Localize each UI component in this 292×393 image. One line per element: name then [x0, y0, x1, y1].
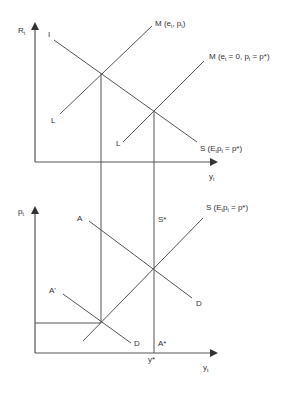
- lm-curve-1: [60, 26, 152, 114]
- bottom-y-axis-label: pt: [18, 207, 24, 217]
- lm-curve-1-start-label: L: [51, 116, 56, 125]
- lras-bottom-label: A*: [158, 339, 166, 348]
- as-curve-label: S (Etpt = p*): [206, 203, 248, 213]
- ad-curve-1: [89, 221, 192, 298]
- lm-curve-1-label: M (et, pt): [155, 19, 186, 29]
- ad-curve-2-end-label: D: [134, 339, 140, 348]
- ad-curve-1-start-label: A: [77, 214, 83, 223]
- is-curve-label: S (Etpt = p*): [200, 144, 242, 154]
- y-star-label: y*: [148, 355, 155, 364]
- bottom-x-axis-label: yt: [203, 363, 209, 373]
- top-x-axis-label: yt: [209, 172, 215, 182]
- ad-curve-1-end-label: D: [196, 299, 202, 308]
- is-curve: [54, 40, 197, 142]
- top-y-axis-label: Rt: [18, 26, 26, 36]
- lm-curve-2-label: M (et = 0, pt = p*): [209, 52, 270, 62]
- top-panel: Rt yt I S (Etpt = p*) L M (et, pt) L M (…: [18, 19, 270, 182]
- is-curve-start-label: I: [48, 30, 50, 39]
- lm-curve-2: [123, 61, 204, 142]
- is-lm-ad-as-diagram: Rt yt I S (Etpt = p*) L M (et, pt) L M (…: [0, 0, 292, 393]
- lm-curve-2-start-label: L: [116, 139, 121, 148]
- bottom-panel: pt yt A D A' D S (Etpt = p*) S* A* y*: [18, 203, 248, 373]
- ad-curve-2-start-label: A': [49, 286, 56, 295]
- lras-top-label: S*: [158, 215, 166, 224]
- ad-curve-2: [63, 294, 131, 343]
